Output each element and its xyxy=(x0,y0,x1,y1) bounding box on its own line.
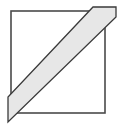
diagram-svg xyxy=(0,0,122,128)
figure-canvas: Square with diagonal band xyxy=(0,0,122,128)
